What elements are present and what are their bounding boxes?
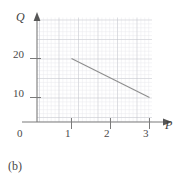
x-tick-label-3: 3 <box>143 128 149 139</box>
x-axis-label: P <box>165 119 172 131</box>
y-axis-label: Q <box>16 11 25 23</box>
x-tick-label-0: 0 <box>17 128 23 139</box>
figure-caption: (b) <box>8 160 22 172</box>
y-tick-label-20: 20 <box>13 49 24 60</box>
y-tick-label-10: 10 <box>13 88 24 99</box>
x-tick-label-2: 2 <box>104 128 110 139</box>
figure-panel: Q P 20 10 0 1 2 3 (b) <box>0 0 182 184</box>
plot-canvas <box>0 0 182 184</box>
x-tick-label-1: 1 <box>65 128 71 139</box>
